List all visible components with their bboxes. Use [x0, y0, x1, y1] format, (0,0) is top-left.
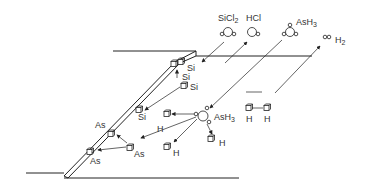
h-right-label: H — [219, 139, 226, 148]
adsorbed-ash3-icon — [194, 106, 211, 124]
upper-terrace — [113, 51, 312, 56]
sicl2-molecule-icon — [220, 28, 236, 37]
adsorbed-ash3-label: AsH3 — [214, 113, 235, 123]
si-adatom-label: Si — [190, 83, 198, 92]
h2-arrow — [275, 46, 320, 93]
surface-arrows — [98, 70, 263, 150]
lower-terrace — [26, 173, 239, 178]
ash3-arrow — [210, 40, 282, 108]
as-edge-atom-icon — [108, 130, 115, 137]
si-step-atom-icon — [171, 60, 178, 67]
as-edge-top-label: As — [95, 121, 106, 130]
hcl-label: HCl — [246, 14, 261, 23]
h-atom-icon — [164, 110, 171, 117]
si-edge-label: Si — [138, 113, 146, 122]
h-atom-icon — [164, 143, 171, 150]
h-pair-label-1: H — [246, 115, 253, 124]
h-left-label: H — [157, 125, 164, 134]
as-adatom-icon — [127, 144, 134, 151]
as-adatom-label: As — [134, 150, 145, 159]
h2-molecule-icon — [323, 35, 331, 39]
h2-label: H2 — [335, 36, 345, 46]
diagram-lines — [0, 0, 368, 187]
sicl2-label: SiCl2 — [218, 14, 238, 24]
h-pair-label-2: H — [264, 115, 271, 124]
h-atom-icon — [208, 135, 215, 142]
as-edge-bottom-label: As — [90, 157, 101, 166]
h-bottom-label: H — [173, 149, 180, 158]
hcl-arrow — [225, 42, 247, 63]
h-atom-icon — [246, 104, 253, 111]
si-step-label-2: Si — [182, 73, 190, 82]
si-adatom-icon — [181, 82, 188, 89]
ash3-gas-label: AsH3 — [296, 18, 317, 28]
h-atom-icon — [264, 104, 271, 111]
diagram-canvas: SiCl2 HCl AsH3 H2 Si Si Si Si As As As H… — [0, 0, 368, 187]
step-edge — [64, 51, 196, 178]
sicl2-arrow — [202, 42, 224, 62]
hcl-molecule-icon — [248, 28, 260, 37]
